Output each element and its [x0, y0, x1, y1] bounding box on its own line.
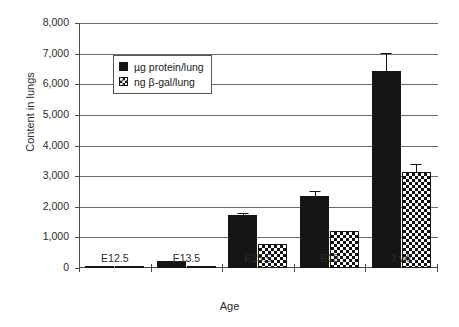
bar-bgal	[187, 266, 216, 268]
y-axis-label: 7,000	[9, 47, 69, 59]
y-axis-label: 8,000	[9, 16, 69, 28]
x-axis-tick	[365, 264, 366, 272]
error-bar	[416, 164, 417, 173]
x-axis-tick	[222, 264, 223, 272]
x-axis-tick	[151, 264, 152, 272]
x-axis-tick	[294, 264, 295, 272]
error-bar-cap	[381, 53, 392, 54]
legend-item-protein: µg protein/lung	[119, 59, 204, 74]
x-axis-tick	[437, 264, 438, 272]
y-axis-label: 6,000	[9, 77, 69, 89]
x-axis-label: E18	[290, 252, 370, 264]
legend-swatch-checker-icon	[119, 77, 128, 86]
x-axis-label: E15.5	[218, 252, 298, 264]
y-axis-label: 4,000	[9, 139, 69, 151]
bar-group	[365, 23, 437, 268]
error-bar-cap	[237, 213, 248, 214]
y-axis-label: 3,000	[9, 169, 69, 181]
y-axis-label: 1,000	[9, 230, 69, 242]
x-axis-label: E12.5	[75, 252, 155, 264]
error-bar-cap	[411, 164, 422, 165]
x-axis-label: E13.5	[146, 252, 226, 264]
legend-swatch-solid-icon	[119, 62, 128, 71]
y-axis-label: 2,000	[9, 200, 69, 212]
legend-label-protein: µg protein/lung	[134, 61, 204, 73]
y-axis-label: 5,000	[9, 108, 69, 120]
bar-group	[294, 23, 366, 268]
error-bar-cap	[309, 191, 320, 192]
bar-protein	[372, 71, 401, 268]
error-bar	[386, 53, 387, 72]
legend-label-bgal: ng β-gal/lung	[134, 76, 195, 88]
bar-protein	[85, 266, 114, 268]
bar-group	[222, 23, 294, 268]
x-axis-title: Age	[0, 300, 459, 312]
x-axis-label: 2 wk	[361, 252, 441, 264]
bar-chart: Content in lungs 01,0002,0003,0004,0005,…	[0, 0, 459, 327]
bar-bgal	[115, 266, 144, 268]
legend: µg protein/lung ng β-gal/lung	[113, 55, 212, 94]
legend-item-bgal: ng β-gal/lung	[119, 74, 204, 89]
y-axis-label: 0	[9, 261, 69, 273]
x-axis-tick	[79, 264, 80, 272]
